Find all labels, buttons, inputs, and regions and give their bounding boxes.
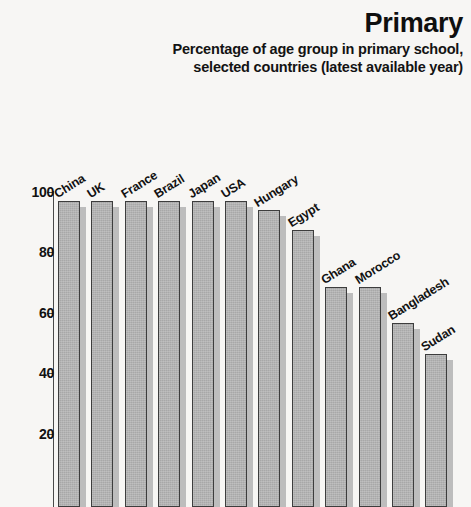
category-label-bangladesh: Bangladesh bbox=[386, 275, 452, 323]
category-label-japan: Japan bbox=[185, 171, 222, 201]
bar-ghana bbox=[325, 287, 353, 507]
bar-body bbox=[359, 287, 381, 507]
tick-label: 100 bbox=[12, 184, 54, 200]
bar-china bbox=[58, 201, 86, 507]
category-label-egypt: Egypt bbox=[285, 200, 321, 230]
category-label-sudan: Sudan bbox=[419, 322, 458, 354]
bar-body bbox=[158, 201, 180, 507]
bar-body bbox=[225, 201, 247, 507]
bar-morocco bbox=[359, 287, 387, 507]
tick-label: 40 bbox=[12, 365, 54, 381]
bar-usa bbox=[225, 201, 253, 507]
bar-egypt bbox=[292, 230, 320, 507]
tick-label: 80 bbox=[12, 244, 54, 260]
bar-body bbox=[258, 210, 280, 507]
category-label-france: France bbox=[118, 168, 159, 201]
bar-hungary bbox=[258, 210, 286, 507]
category-label-uk: UK bbox=[85, 180, 107, 201]
category-label-ghana: Ghana bbox=[319, 255, 359, 287]
bar-body bbox=[392, 323, 414, 507]
bar-japan bbox=[192, 201, 220, 507]
bar-bangladesh bbox=[392, 323, 420, 507]
bar-uk bbox=[91, 201, 119, 507]
bar-body bbox=[192, 201, 214, 507]
tick-label: 20 bbox=[12, 426, 54, 442]
bar-chart-plot: 10080604020 ChinaUKFranceBrazilJapanUSAH… bbox=[0, 0, 471, 507]
bar-france bbox=[125, 201, 153, 507]
bar-body bbox=[292, 230, 314, 507]
category-label-china: China bbox=[52, 171, 88, 201]
chart-page: Primary Percentage of age group in prima… bbox=[0, 0, 471, 507]
category-label-usa: USA bbox=[219, 176, 248, 202]
bar-body bbox=[91, 201, 113, 507]
y-axis-line bbox=[53, 191, 54, 507]
bar-brazil bbox=[158, 201, 186, 507]
bar-body bbox=[125, 201, 147, 507]
bar-body bbox=[425, 354, 447, 507]
category-label-hungary: Hungary bbox=[252, 172, 301, 210]
bar-body bbox=[58, 201, 80, 507]
category-label-morocco: Morocco bbox=[352, 248, 402, 287]
tick-label: 60 bbox=[12, 305, 54, 321]
bar-sudan bbox=[425, 354, 453, 507]
bar-body bbox=[325, 287, 347, 507]
